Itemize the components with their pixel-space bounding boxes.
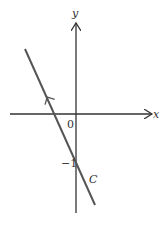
y-intercept-label: −1	[61, 157, 77, 170]
y-axis-label: y	[71, 7, 79, 20]
coordinate-plane: y x 0 −1 C	[0, 0, 166, 226]
line-c-label: C	[89, 173, 98, 186]
origin-label: 0	[67, 118, 74, 131]
x-axis-label: x	[153, 108, 160, 121]
line-c	[25, 49, 95, 205]
